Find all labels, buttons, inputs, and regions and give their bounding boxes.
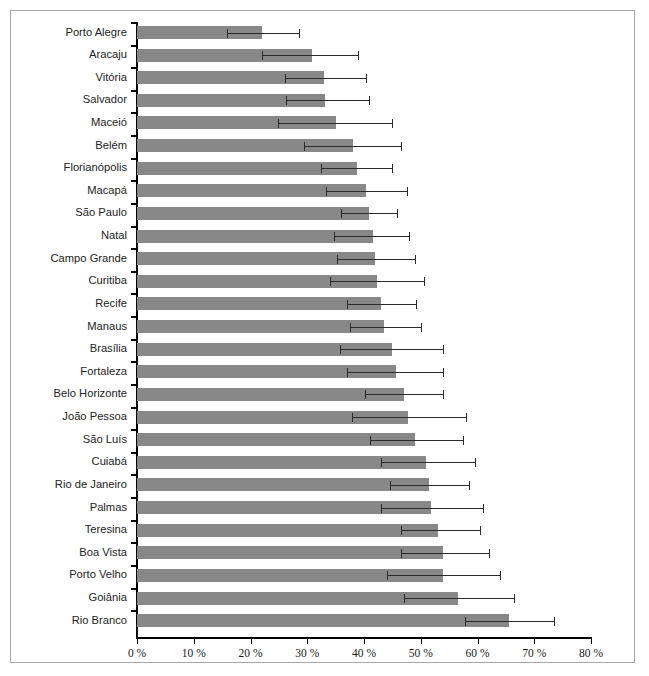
x-axis-tick-label: 0 % <box>107 647 167 659</box>
error-bar-cap-high <box>554 617 555 626</box>
category-label: Teresina <box>85 523 127 535</box>
bar <box>137 614 509 627</box>
x-axis-tick <box>421 639 422 644</box>
error-bar-cap-low <box>340 345 341 354</box>
y-axis-tick <box>131 474 136 476</box>
y-axis-tick <box>131 67 136 69</box>
y-axis-tick <box>131 610 136 612</box>
error-bar-line <box>404 598 515 599</box>
y-axis-tick <box>131 248 136 250</box>
y-axis-tick <box>131 520 136 522</box>
error-bar-cap-high <box>489 549 490 558</box>
x-axis-tick-label: 70 % <box>504 647 564 659</box>
error-bar-cap-high <box>443 368 444 377</box>
error-bar-cap-low <box>326 187 327 196</box>
y-axis-tick <box>131 588 136 590</box>
error-bar-cap-high <box>500 571 501 580</box>
error-bar-line <box>304 146 401 147</box>
error-bar-line <box>321 168 392 169</box>
category-label: Rio Branco <box>72 614 127 626</box>
category-label: João Pessoa <box>62 410 127 422</box>
category-label: Goiânia <box>88 591 127 603</box>
error-bar-cap-low <box>387 571 388 580</box>
category-label: Manaus <box>87 320 127 332</box>
error-bar-cap-low <box>404 594 405 603</box>
y-axis-tick <box>131 429 136 431</box>
y-axis-tick <box>131 361 136 363</box>
category-label: Vitória <box>95 71 127 83</box>
category-label: Maceió <box>91 116 127 128</box>
category-label: São Paulo <box>75 206 127 218</box>
error-bar-cap-high <box>480 526 481 535</box>
x-axis-tick <box>591 639 592 644</box>
bar-chart-plot-area: Porto AlegreAracajuVitóriaSalvadorMaceió… <box>11 11 634 662</box>
error-bar-cap-high <box>443 390 444 399</box>
error-bar-line <box>227 33 299 34</box>
y-axis-tick <box>131 45 136 47</box>
category-label: Belém <box>95 139 127 151</box>
error-bar-line <box>387 575 501 576</box>
x-axis-tick-label: 10 % <box>164 647 224 659</box>
error-bar-line <box>341 213 397 214</box>
error-bar-line <box>262 55 358 56</box>
category-label: Porto Alegre <box>65 26 127 38</box>
y-axis-tick <box>131 158 136 160</box>
error-bar-cap-high <box>397 209 398 218</box>
error-bar-cap-low <box>401 526 402 535</box>
error-bar-cap-low <box>347 368 348 377</box>
y-axis-tick <box>131 90 136 92</box>
bar <box>137 297 381 310</box>
error-bar-cap-high <box>415 255 416 264</box>
x-axis-tick <box>534 639 535 644</box>
category-label: Cuiabá <box>92 455 127 467</box>
y-axis-tick <box>131 293 136 295</box>
error-bar-cap-low <box>352 413 353 422</box>
error-bar-cap-low <box>390 481 391 490</box>
error-bar-cap-high <box>514 594 515 603</box>
error-bar-cap-low <box>465 617 466 626</box>
error-bar-cap-low <box>286 96 287 105</box>
y-axis-tick <box>131 339 136 341</box>
x-axis-tick-label: 40 % <box>334 647 394 659</box>
error-bar-line <box>365 394 443 395</box>
x-axis-tick <box>307 639 308 644</box>
category-label: Campo Grande <box>51 252 128 264</box>
error-bar-line <box>381 508 483 509</box>
y-axis-tick <box>131 180 136 182</box>
x-axis-tick <box>478 639 479 644</box>
bar <box>137 478 429 491</box>
y-axis-tick <box>131 316 136 318</box>
y-axis-tick <box>131 226 136 228</box>
error-bar-line <box>401 530 480 531</box>
error-bar-line <box>347 304 416 305</box>
error-bar-cap-high <box>416 300 417 309</box>
error-bar-cap-low <box>381 504 382 513</box>
category-label: Palmas <box>90 501 127 513</box>
error-bar-cap-high <box>358 51 359 60</box>
error-bar-cap-high <box>424 277 425 286</box>
error-bar-cap-low <box>350 323 351 332</box>
error-bar-line <box>326 191 407 192</box>
error-bar-line <box>381 462 475 463</box>
error-bar-cap-high <box>466 413 467 422</box>
error-bar-cap-high <box>392 164 393 173</box>
error-bar-cap-low <box>262 51 263 60</box>
error-bar-line <box>347 372 443 373</box>
category-label: Belo Horizonte <box>54 387 127 399</box>
y-axis-tick <box>131 135 136 137</box>
category-label: Macapá <box>87 184 127 196</box>
category-label: Rio de Janeiro <box>55 478 127 490</box>
category-label: Porto Velho <box>69 568 127 580</box>
y-axis-tick <box>131 271 136 273</box>
category-label: Florianópolis <box>64 161 127 173</box>
error-bar-cap-high <box>475 458 476 467</box>
x-axis-tick <box>137 639 138 644</box>
y-axis-tick <box>131 542 136 544</box>
error-bar-cap-high <box>407 187 408 196</box>
y-axis-tick <box>131 384 136 386</box>
category-label: Recife <box>95 297 127 309</box>
category-label: Curitiba <box>88 274 127 286</box>
error-bar-cap-high <box>366 74 367 83</box>
y-axis-tick <box>131 497 136 499</box>
x-axis-tick <box>251 639 252 644</box>
